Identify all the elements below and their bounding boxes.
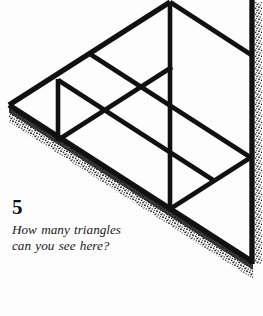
puzzle-number: 5 <box>12 196 162 218</box>
puzzle-caption: 5 How many triangles can you see here? <box>12 196 162 253</box>
right-edge-shadow-group <box>255 2 262 264</box>
stipple-shadow-group <box>9 106 253 279</box>
inner-diagonal-short-top <box>170 2 253 56</box>
cross-diagonal-upward <box>58 67 172 140</box>
triangle-subdivision-figure <box>0 0 263 316</box>
puzzle-question: How many triangles can you see here? <box>12 222 144 253</box>
right-edge-stipple <box>255 2 262 264</box>
puzzle-page: 5 How many triangles can you see here? <box>0 0 263 316</box>
cross-diagonal-lower <box>170 156 253 209</box>
